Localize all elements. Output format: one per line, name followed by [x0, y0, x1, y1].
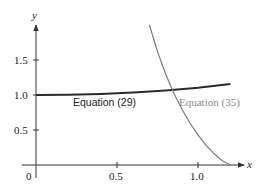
xtick-label-10: 1.0	[190, 171, 204, 182]
origin-label: 0	[26, 171, 32, 182]
y-axis-label: y	[32, 10, 37, 21]
x-axis-label: x	[247, 159, 252, 170]
series-label-equation-29: Equation (29)	[73, 97, 136, 108]
series-label-equation-35: Equation (35)	[179, 97, 240, 108]
ytick-label-10: 1.0	[14, 90, 28, 101]
series-equation-35	[149, 25, 230, 165]
series-equation-29	[36, 84, 230, 95]
ytick-label-15: 1.5	[14, 55, 28, 66]
ytick-label-05: 0.5	[14, 125, 28, 136]
xtick-label-05: 0.5	[109, 171, 123, 182]
